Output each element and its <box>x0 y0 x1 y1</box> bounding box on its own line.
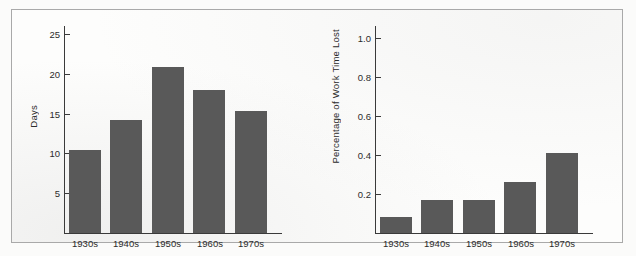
bar-1930s <box>69 150 101 233</box>
bar-1940s <box>110 120 142 233</box>
bar-1930s <box>380 217 412 233</box>
x-category-label: 1930s <box>383 238 409 249</box>
y-tick-label: 20 <box>49 69 60 80</box>
y-tick-label: 0.8 <box>358 72 371 83</box>
y-axis-line <box>64 26 65 234</box>
y-tick-mark <box>65 34 70 35</box>
x-category-label: 1950s <box>155 238 181 249</box>
y-tick-label: 10 <box>49 148 60 159</box>
y-tick-label: 5 <box>55 188 60 199</box>
bar-1950s <box>463 200 495 233</box>
bar-1960s <box>504 182 536 233</box>
y-tick-mark <box>65 74 70 75</box>
x-category-label: 1960s <box>508 238 534 249</box>
y-tick-mark <box>376 77 381 78</box>
x-axis-line <box>64 233 282 234</box>
plot-area-percentage: Percentage of Work Time Lost 0.20.40.60.… <box>317 9 623 243</box>
plot-area-days: Days 5101520251930s1940s1950s1960s1970s <box>11 9 317 243</box>
bar-1970s <box>235 111 267 233</box>
y-axis-line <box>375 26 376 234</box>
chart-panel-days: Days 5101520251930s1940s1950s1960s1970s <box>11 9 317 243</box>
y-tick-label: 0.2 <box>358 189 371 200</box>
x-category-label: 1960s <box>197 238 223 249</box>
x-category-label: 1940s <box>113 238 139 249</box>
x-category-label: 1950s <box>466 238 492 249</box>
y-tick-label: 0.6 <box>358 111 371 122</box>
bar-1970s <box>546 153 578 233</box>
y-tick-mark <box>376 194 381 195</box>
x-category-label: 1970s <box>549 238 575 249</box>
y-axis-title-days: Days <box>28 105 39 128</box>
bar-1940s <box>421 200 453 233</box>
y-tick-label: 1.0 <box>358 33 371 44</box>
x-axis-line <box>375 233 593 234</box>
y-tick-mark <box>376 155 381 156</box>
x-category-label: 1970s <box>238 238 264 249</box>
y-tick-mark <box>376 38 381 39</box>
y-axis-title-percentage: Percentage of Work Time Lost <box>330 29 341 164</box>
y-tick-label: 0.4 <box>358 150 371 161</box>
bar-1960s <box>193 90 225 233</box>
chart-panel-percentage: Percentage of Work Time Lost 0.20.40.60.… <box>317 9 623 243</box>
bar-1950s <box>152 67 184 233</box>
x-category-label: 1930s <box>72 238 98 249</box>
y-tick-label: 25 <box>49 29 60 40</box>
y-tick-mark <box>65 114 70 115</box>
y-tick-label: 15 <box>49 109 60 120</box>
y-tick-mark <box>376 116 381 117</box>
x-category-label: 1940s <box>424 238 450 249</box>
